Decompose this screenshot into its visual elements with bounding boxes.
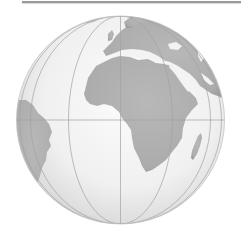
globe[interactable]	[0, 0, 241, 240]
map-canvas[interactable]	[0, 0, 241, 240]
